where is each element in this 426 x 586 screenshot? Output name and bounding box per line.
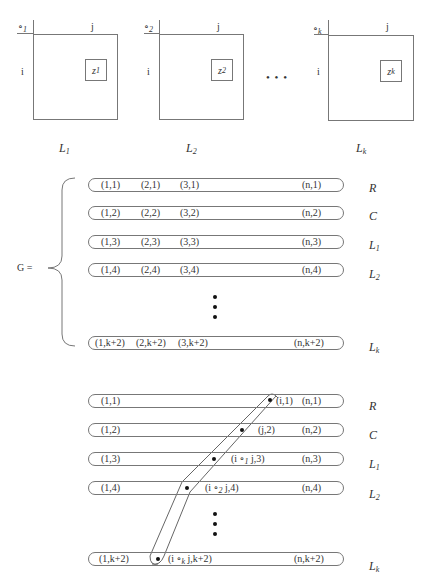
selected-cell-dot xyxy=(185,486,189,490)
vertical-ellipsis-dot xyxy=(213,305,217,309)
selected-cell-label: (i ∘2 j,4) xyxy=(205,483,239,495)
cell-label: (2,1) xyxy=(141,180,160,190)
cell-label: (2,4) xyxy=(141,265,160,275)
vertical-ellipsis-dot xyxy=(213,295,217,299)
cell-label: (n,1) xyxy=(302,180,321,190)
cell-label: (1,k+2) xyxy=(95,338,125,348)
selected-cell-dot xyxy=(268,398,272,402)
selected-cell-label: (j,2) xyxy=(258,425,275,435)
cell-label: (1,k+2) xyxy=(99,554,129,564)
cell-label: (1,1) xyxy=(101,396,120,406)
vertical-ellipsis-dot xyxy=(213,512,217,516)
selection-band-outer xyxy=(150,394,276,564)
row-type-label: R xyxy=(369,400,376,414)
cell-label: (1,4) xyxy=(101,265,120,275)
row-type-label: C xyxy=(369,210,377,224)
cell-label: (3,k+2) xyxy=(178,338,208,348)
row-type-label: Lk xyxy=(369,560,379,574)
vertical-ellipsis-dot xyxy=(213,532,217,536)
cell-label: (n,k+2) xyxy=(294,338,324,348)
cell-label: (1,3) xyxy=(101,237,120,247)
cell-label: (n,2) xyxy=(302,208,321,218)
cell-label: (1,3) xyxy=(101,454,120,464)
cell-label: (2,k+2) xyxy=(136,338,166,348)
diagram-lines xyxy=(0,0,426,586)
cell-label: (n,4) xyxy=(302,265,321,275)
cell-label: (n,3) xyxy=(302,454,321,464)
row-type-label: L1 xyxy=(369,458,380,472)
cell-label: (1,4) xyxy=(101,483,120,493)
row-type-label: C xyxy=(369,429,377,443)
selected-cell-dot xyxy=(156,557,160,561)
cell-label: (3,4) xyxy=(180,265,199,275)
row-type-label: Lk xyxy=(369,341,379,355)
selected-cell-dot xyxy=(240,428,244,432)
vertical-ellipsis-dot xyxy=(213,315,217,319)
cell-label: (1,2) xyxy=(101,208,120,218)
cell-label: (3,1) xyxy=(180,180,199,190)
selected-cell-label: (i ∘k j,k+2) xyxy=(168,554,212,566)
cell-label: (n,3) xyxy=(302,237,321,247)
cell-label: (3,2) xyxy=(180,208,199,218)
cell-label: (n,4) xyxy=(302,483,321,493)
cell-label: (3,3) xyxy=(180,237,199,247)
cell-label: (2,3) xyxy=(141,237,160,247)
row-type-label: L2 xyxy=(369,488,380,502)
row-type-label: L1 xyxy=(369,239,380,253)
cell-label: (1,2) xyxy=(101,425,120,435)
selected-cell-dot xyxy=(212,457,216,461)
cell-label: (n,1) xyxy=(302,396,321,406)
cell-label: (n,k+2) xyxy=(294,554,324,564)
row-type-label: L2 xyxy=(369,268,380,282)
cell-label: (n,2) xyxy=(302,425,321,435)
vertical-ellipsis-dot xyxy=(213,522,217,526)
row-type-label: R xyxy=(369,182,376,196)
left-brace xyxy=(48,178,75,346)
selected-cell-label: (i ∘1 j,3) xyxy=(231,454,265,466)
cell-label: (1,1) xyxy=(101,180,120,190)
cell-label: (2,2) xyxy=(141,208,160,218)
selected-cell-label: (i,1) xyxy=(276,396,293,406)
